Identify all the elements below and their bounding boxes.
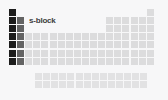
element-cell[interactable] — [122, 58, 129, 65]
element-cell[interactable] — [76, 81, 83, 88]
element-cell[interactable] — [122, 25, 129, 32]
element-cell[interactable] — [124, 81, 131, 88]
element-cell[interactable] — [147, 41, 154, 48]
element-cell[interactable] — [82, 50, 89, 57]
element-cell[interactable] — [66, 33, 73, 40]
element-cell[interactable] — [139, 58, 146, 65]
element-cell[interactable] — [66, 41, 73, 48]
element-cell[interactable] — [90, 58, 97, 65]
element-cell[interactable] — [66, 58, 73, 65]
element-cell[interactable] — [25, 50, 32, 57]
element-cell[interactable] — [74, 58, 81, 65]
element-cell[interactable] — [106, 58, 113, 65]
element-cell[interactable] — [51, 81, 58, 88]
element-cell[interactable] — [147, 9, 154, 16]
element-cell[interactable] — [139, 33, 146, 40]
element-cell[interactable] — [50, 50, 57, 57]
element-cell[interactable] — [41, 41, 48, 48]
element-cell[interactable] — [90, 50, 97, 57]
element-cell[interactable] — [25, 58, 32, 65]
element-cell[interactable] — [114, 17, 121, 24]
element-cell[interactable] — [35, 81, 42, 88]
element-cell[interactable] — [106, 25, 113, 32]
element-cell[interactable] — [9, 9, 16, 16]
element-cell[interactable] — [106, 33, 113, 40]
element-cell[interactable] — [122, 17, 129, 24]
element-cell[interactable] — [59, 81, 66, 88]
element-cell[interactable] — [25, 41, 32, 48]
element-cell[interactable] — [82, 33, 89, 40]
element-cell[interactable] — [50, 41, 57, 48]
element-cell[interactable] — [17, 41, 24, 48]
element-cell[interactable] — [82, 41, 89, 48]
element-cell[interactable] — [9, 33, 16, 40]
element-cell[interactable] — [59, 73, 66, 80]
element-cell[interactable] — [41, 33, 48, 40]
element-cell[interactable] — [114, 25, 121, 32]
element-cell[interactable] — [25, 33, 32, 40]
element-cell[interactable] — [114, 50, 121, 57]
element-cell[interactable] — [116, 81, 123, 88]
element-cell[interactable] — [122, 33, 129, 40]
element-cell[interactable] — [67, 81, 74, 88]
element-cell[interactable] — [139, 50, 146, 57]
element-cell[interactable] — [131, 41, 138, 48]
element-cell[interactable] — [9, 17, 16, 24]
element-cell[interactable] — [131, 25, 138, 32]
element-cell[interactable] — [50, 33, 57, 40]
element-cell[interactable] — [90, 41, 97, 48]
element-cell[interactable] — [58, 41, 65, 48]
element-cell[interactable] — [41, 50, 48, 57]
element-cell[interactable] — [139, 17, 146, 24]
element-cell[interactable] — [58, 33, 65, 40]
element-cell[interactable] — [33, 50, 40, 57]
element-cell[interactable] — [116, 73, 123, 80]
element-cell[interactable] — [106, 50, 113, 57]
element-cell[interactable] — [17, 50, 24, 57]
element-cell[interactable] — [43, 73, 50, 80]
element-cell[interactable] — [98, 58, 105, 65]
element-cell[interactable] — [147, 50, 154, 57]
element-cell[interactable] — [17, 33, 24, 40]
element-cell[interactable] — [131, 50, 138, 57]
element-cell[interactable] — [33, 58, 40, 65]
element-cell[interactable] — [17, 58, 24, 65]
element-cell[interactable] — [84, 73, 91, 80]
element-cell[interactable] — [33, 41, 40, 48]
element-cell[interactable] — [92, 73, 99, 80]
element-cell[interactable] — [114, 33, 121, 40]
element-cell[interactable] — [92, 81, 99, 88]
element-cell[interactable] — [106, 41, 113, 48]
element-cell[interactable] — [98, 50, 105, 57]
element-cell[interactable] — [139, 25, 146, 32]
element-cell[interactable] — [74, 50, 81, 57]
element-cell[interactable] — [33, 33, 40, 40]
element-cell[interactable] — [9, 50, 16, 57]
element-cell[interactable] — [82, 58, 89, 65]
element-cell[interactable] — [9, 41, 16, 48]
element-cell[interactable] — [108, 73, 115, 80]
element-cell[interactable] — [131, 58, 138, 65]
element-cell[interactable] — [131, 17, 138, 24]
element-cell[interactable] — [147, 25, 154, 32]
element-cell[interactable] — [114, 41, 121, 48]
element-cell[interactable] — [66, 50, 73, 57]
element-cell[interactable] — [74, 41, 81, 48]
element-cell[interactable] — [100, 81, 107, 88]
element-cell[interactable] — [35, 73, 42, 80]
element-cell[interactable] — [139, 41, 146, 48]
element-cell[interactable] — [74, 33, 81, 40]
element-cell[interactable] — [58, 50, 65, 57]
element-cell[interactable] — [76, 73, 83, 80]
element-cell[interactable] — [147, 58, 154, 65]
element-cell[interactable] — [67, 73, 74, 80]
element-cell[interactable] — [51, 73, 58, 80]
element-cell[interactable] — [90, 33, 97, 40]
element-cell[interactable] — [50, 58, 57, 65]
element-cell[interactable] — [84, 81, 91, 88]
element-cell[interactable] — [114, 58, 121, 65]
element-cell[interactable] — [132, 81, 139, 88]
element-cell[interactable] — [147, 33, 154, 40]
element-cell[interactable] — [124, 73, 131, 80]
element-cell[interactable] — [17, 25, 24, 32]
